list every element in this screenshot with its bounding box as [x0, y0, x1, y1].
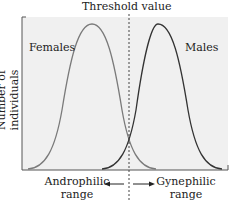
gynephilic-range-line1: Gynephilic [154, 175, 218, 188]
gynephilic-range-line2: range [154, 188, 218, 201]
males-label: Males [185, 42, 219, 54]
androphilic-range-label: Androphilic range [42, 175, 112, 201]
plot-area [22, 17, 228, 170]
females-label: Females [29, 42, 75, 54]
chart-plot [0, 0, 229, 202]
right-arrow-icon [133, 182, 155, 187]
androphilic-range-line2: range [42, 188, 112, 201]
androphilic-range-line1: Androphilic [42, 175, 112, 188]
gynephilic-range-label: Gynephilic range [154, 175, 218, 201]
y-axis-label: Number of individuals [0, 44, 21, 156]
